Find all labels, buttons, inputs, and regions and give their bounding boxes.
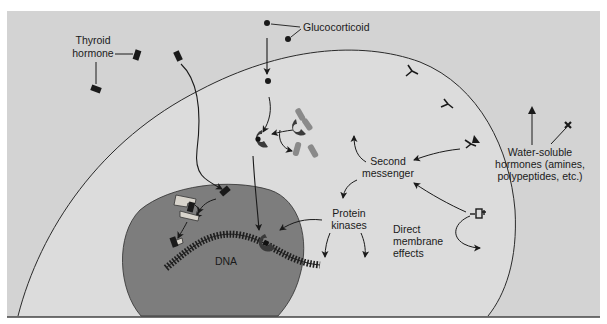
svg-text:messenger: messenger xyxy=(362,167,414,179)
glucocorticoid-icon xyxy=(264,20,270,26)
svg-text:Water-soluble: Water-soluble xyxy=(508,146,573,158)
dna-label: DNA xyxy=(215,255,237,267)
glucocorticoid-icon xyxy=(285,36,291,42)
hormone-mechanism-diagram: DNA Thyroid hormone Glucocorticoid xyxy=(0,0,607,324)
svg-text:kinases: kinases xyxy=(331,219,367,231)
svg-text:effects: effects xyxy=(393,247,424,259)
svg-text:Second: Second xyxy=(370,155,406,167)
glucocorticoid-icon xyxy=(265,78,271,84)
svg-text:hormone: hormone xyxy=(72,47,114,59)
water-soluble-hormones-label: Water-soluble hormones (amines, polypept… xyxy=(495,146,585,182)
svg-text:Protein: Protein xyxy=(332,207,365,219)
svg-text:polypeptides, etc.): polypeptides, etc.) xyxy=(497,170,582,182)
svg-text:Direct: Direct xyxy=(393,223,421,235)
thyroid-hormone-label: Thyroid hormone xyxy=(72,34,114,59)
protein-kinases-label: Protein kinases xyxy=(331,207,367,231)
svg-text:Thyroid: Thyroid xyxy=(75,34,110,46)
svg-text:hormones (amines,: hormones (amines, xyxy=(495,158,585,170)
svg-text:membrane: membrane xyxy=(393,235,443,247)
glucocorticoid-label: Glucocorticoid xyxy=(303,21,370,33)
